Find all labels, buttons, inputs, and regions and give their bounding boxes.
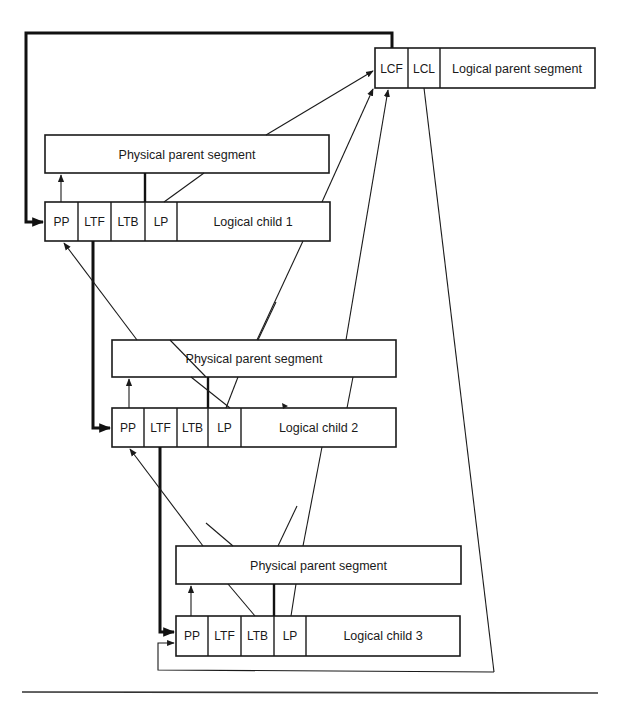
ltf-cell: LTF xyxy=(84,215,104,229)
logical-child-1: PP LTF LTB LP Logical child 1 xyxy=(45,202,330,241)
lcl-cell: LCL xyxy=(413,62,435,76)
ltb-cell: LTB xyxy=(247,629,268,643)
pp-cell: PP xyxy=(53,215,69,229)
lp-cell: LP xyxy=(283,629,298,643)
logical-parent-segment: LCF LCL Logical parent segment xyxy=(375,48,595,88)
physical-parent-segment-3: Physical parent segment xyxy=(176,546,461,584)
logical-child-label: Logical child 1 xyxy=(213,215,292,229)
logical-twin-chain xyxy=(26,33,392,632)
physical-parent-segment-1: Physical parent segment xyxy=(45,135,329,173)
lp-cell: LP xyxy=(154,215,169,229)
ltf-cell: LTF xyxy=(214,629,234,643)
physical-parent-label: Physical parent segment xyxy=(250,559,387,573)
ltb-cell: LTB xyxy=(117,215,138,229)
logical-parent-label: Logical parent segment xyxy=(452,62,582,76)
pp-cell: PP xyxy=(184,629,200,643)
backward-twin-pointers xyxy=(64,243,494,672)
logical-child-label: Logical child 2 xyxy=(279,421,358,435)
logical-child-label: Logical child 3 xyxy=(343,629,422,643)
lcf-cell: LCF xyxy=(380,62,403,76)
pp-cell: PP xyxy=(120,421,136,435)
physical-parent-label: Physical parent segment xyxy=(186,352,323,366)
physical-parent-segment-2: Physical parent segment xyxy=(112,340,396,377)
logical-relationship-diagram: LCF LCL Logical parent segment Physical … xyxy=(0,0,620,702)
child-to-next-parent-lines xyxy=(257,241,353,546)
caption-rule xyxy=(22,692,598,693)
physical-parent-label: Physical parent segment xyxy=(119,148,256,162)
logical-child-3: PP LTF LTB LP Logical child 3 xyxy=(176,616,460,656)
lp-cell: LP xyxy=(217,421,232,435)
ltf-cell: LTF xyxy=(150,421,170,435)
ltb-cell: LTB xyxy=(182,421,203,435)
logical-child-2: PP LTF LTB LP Logical child 2 xyxy=(112,408,396,447)
